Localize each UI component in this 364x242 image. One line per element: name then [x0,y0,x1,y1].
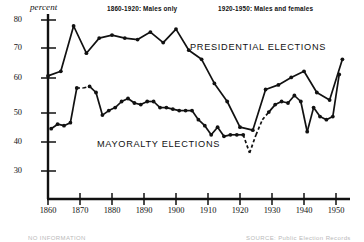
data-point [120,100,124,104]
data-point [165,106,169,110]
data-point [161,41,165,45]
data-point [177,109,181,113]
y-tick-label: 30 [0,166,22,175]
x-tick-label: 1910 [191,206,225,215]
data-point [225,100,229,104]
data-point [331,115,335,119]
data-point [97,36,101,40]
chart-figure: percent 1860-1920: Males only 1920-1950:… [0,0,364,242]
data-point [145,100,149,104]
footer-note-left: NO INFORMATION [28,235,86,242]
y-tick-label: 60 [0,73,22,82]
data-point [149,30,153,34]
data-point [174,27,178,31]
data-point [238,125,242,129]
data-point [62,124,66,128]
data-point [56,122,60,126]
data-point [213,82,217,86]
data-point [305,130,309,134]
data-point [171,107,175,111]
data-point [337,73,341,77]
data-point [75,86,79,90]
data-point [113,106,117,110]
data-point [203,124,207,128]
data-point [46,74,50,78]
data-point [328,98,332,102]
footer-note-right: SOURCE: Public Election Records [246,235,351,242]
y-tick-label: 50 [0,108,22,117]
data-point [200,57,204,61]
y-tick-label: 80 [0,15,22,24]
data-point [286,101,290,105]
x-tick-label: 1950 [319,206,353,215]
data-point [152,100,156,104]
data-point [264,88,268,92]
data-point [94,91,98,95]
data-point [85,51,89,55]
data-point [107,109,111,113]
line-segment [307,108,313,132]
data-point [126,97,130,101]
data-point [251,128,255,132]
data-point [158,106,162,110]
data-point [49,127,53,131]
data-point [123,36,127,40]
x-tick-label: 1880 [95,206,129,215]
line-segment [301,102,307,132]
data-point [315,91,319,95]
x-tick-label: 1860 [31,206,65,215]
data-point [318,115,322,119]
period-note-males-only: 1860-1920: Males only [107,5,177,12]
x-tick-label: 1900 [159,206,193,215]
data-point [69,121,73,125]
data-point [325,118,329,122]
data-point [197,118,201,122]
data-point [241,133,245,137]
data-point [293,94,297,98]
data-point [277,83,281,87]
x-tick-label: 1930 [255,206,289,215]
data-point [101,113,105,117]
data-point [216,125,220,129]
data-point [72,24,76,28]
line-segment [96,93,102,116]
data-point [190,109,194,113]
line-segment [70,88,76,123]
data-point [302,69,306,73]
data-point [289,76,293,80]
data-point [312,106,316,110]
data-point [136,38,140,42]
y-axis-unit-label: percent [30,2,57,12]
line-segment [256,120,262,135]
x-tick-label: 1890 [127,206,161,215]
series-label-mayoralty: MAYORALTY ELECTIONS [97,139,220,149]
data-point [235,133,239,137]
data-point [222,134,226,138]
data-point [341,57,345,61]
period-note-males-and-females: 1920-1950: Males and females [218,5,313,12]
data-point [267,110,271,114]
data-point [299,100,303,104]
data-point [59,69,63,73]
data-point [133,101,137,105]
line-segment [243,135,249,153]
x-tick-label: 1940 [287,206,321,215]
mayoralty-markers [49,73,341,139]
data-point [139,103,143,107]
data-point [88,85,92,89]
series-label-presidential: PRESIDENTIAL ELECTIONS [190,42,326,52]
line-segment [250,135,256,153]
y-tick-label: 40 [0,137,22,146]
data-point [229,133,233,137]
data-point [110,33,114,37]
x-tick-label: 1920 [223,206,257,215]
x-tick-label: 1870 [63,206,97,215]
y-tick-label: 70 [0,43,22,52]
data-point [280,100,284,104]
data-point [184,109,188,113]
data-point [209,133,213,137]
data-point [273,103,277,107]
